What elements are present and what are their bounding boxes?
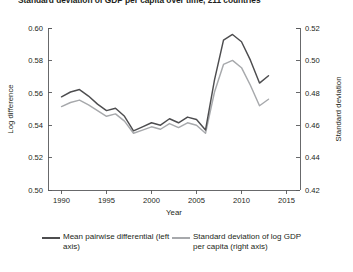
- legend-item-standard-deviation: Standard deviation of log GDP per capita…: [172, 232, 313, 252]
- x-axis: 199019952000200520102015 Year: [48, 190, 300, 217]
- left-axis-tick-label: 0.54: [28, 121, 43, 130]
- x-axis-tick-label: 2015: [278, 196, 295, 205]
- legend-swatch-icon-light: [172, 237, 190, 239]
- right-axis-tick-labels: 0.420.440.460.480.500.52: [305, 24, 320, 195]
- x-axis-title: Year: [166, 208, 182, 217]
- legend-label-standard-deviation: Standard deviation of log GDP per capita…: [193, 232, 313, 252]
- left-axis-tick-label: 0.58: [28, 56, 43, 65]
- legend-swatch-icon-dark: [42, 237, 60, 239]
- right-axis-tick-label: 0.46: [305, 121, 320, 130]
- left-axis-tick-label: 0.52: [28, 153, 43, 162]
- right-axis-tick-label: 0.50: [305, 56, 320, 65]
- legend-label-mean-pairwise: Mean pairwise differential (left axis): [63, 232, 183, 252]
- line-chart-svg: 0.500.520.540.560.580.60 Log difference …: [0, 14, 353, 224]
- x-axis-tick-labels: 199019952000200520102015: [53, 196, 295, 205]
- left-axis-tick-label: 0.60: [28, 24, 43, 33]
- right-axis-tick-label: 0.44: [305, 153, 320, 162]
- x-axis-tick-label: 2010: [233, 196, 250, 205]
- right-axis: 0.420.440.460.480.500.52 Standard deviat…: [296, 24, 343, 195]
- left-axis: 0.500.520.540.560.580.60 Log difference: [6, 24, 52, 195]
- left-axis-tick-labels: 0.500.520.540.560.580.60: [28, 24, 43, 195]
- right-axis-tick-label: 0.52: [305, 24, 320, 33]
- chart-title: Standard deviation of GDP per capita ove…: [18, 0, 348, 5]
- right-axis-tick-label: 0.48: [305, 89, 320, 98]
- left-axis-title: Log difference: [6, 84, 15, 133]
- x-axis-tick-label: 2000: [143, 196, 160, 205]
- chart-legend: Mean pairwise differential (left axis) S…: [0, 232, 353, 264]
- x-axis-tick-label: 1995: [98, 196, 115, 205]
- x-axis-ticks: [62, 190, 287, 194]
- left-axis-tick-label: 0.56: [28, 89, 43, 98]
- right-axis-title: Standard deviation: [334, 76, 343, 141]
- plot-background: [48, 28, 300, 190]
- legend-item-mean-pairwise: Mean pairwise differential (left axis): [42, 232, 183, 252]
- right-axis-tick-label: 0.42: [305, 186, 320, 195]
- x-axis-tick-label: 2005: [188, 196, 205, 205]
- left-axis-tick-label: 0.50: [28, 186, 43, 195]
- chart-figure: Standard deviation of GDP per capita ove…: [0, 0, 353, 272]
- x-axis-tick-label: 1990: [53, 196, 70, 205]
- plot-area: 0.500.520.540.560.580.60 Log difference …: [0, 14, 353, 224]
